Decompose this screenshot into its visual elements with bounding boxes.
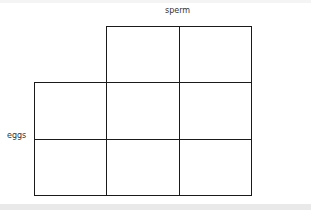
grid-cell-r1-c0 — [34, 82, 107, 140]
grid-cell-r0-c1 — [106, 26, 180, 83]
eggs-label: eggs — [7, 131, 26, 140]
sperm-label: sperm — [165, 6, 190, 15]
grid-cell-r2-c2 — [179, 139, 252, 196]
bottom-band — [0, 204, 311, 210]
top-band — [0, 0, 311, 3]
grid-cell-r0-c2 — [179, 26, 252, 83]
grid-cell-r2-c1 — [106, 139, 180, 196]
grid-cell-r1-c2 — [179, 82, 252, 140]
grid-cell-r1-c1 — [106, 82, 180, 140]
grid-cell-r2-c0 — [34, 139, 107, 196]
